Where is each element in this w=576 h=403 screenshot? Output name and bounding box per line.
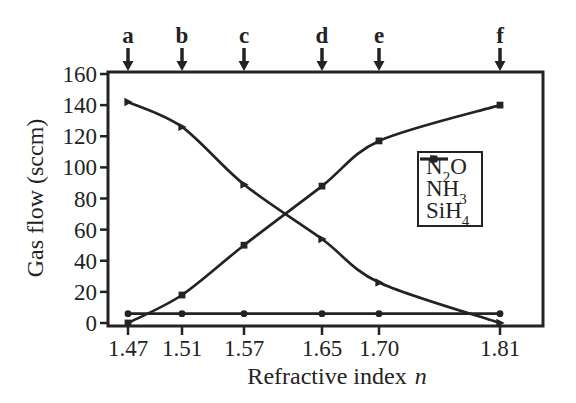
chart-svg: 0204060801001201401601.471.511.571.651.7…: [0, 0, 576, 403]
square-marker-icon: [125, 320, 132, 327]
y-tick-label: 80: [74, 187, 97, 212]
y-tick-label: 0: [86, 311, 98, 336]
x-tick-label: 1.57: [224, 336, 264, 361]
annotation-arrow-e: [374, 48, 385, 71]
annotation-arrow-f: [495, 48, 506, 71]
y-tick-label: 20: [74, 280, 97, 305]
down-arrow-head-icon: [239, 61, 250, 71]
legend-circle-swatch-icon: [419, 153, 449, 165]
y-tick-label: 120: [63, 124, 98, 149]
series-SiH4: [125, 310, 504, 317]
annotation-arrow-a: [123, 48, 134, 71]
annotation-arrow-d: [317, 48, 328, 71]
x-tick-label: 1.70: [359, 336, 399, 361]
arrow-letter: a: [122, 23, 134, 48]
y-axis-title: Gas flow (sccm): [22, 119, 49, 278]
down-arrow-head-icon: [177, 61, 188, 71]
arrow-letter: d: [316, 23, 329, 48]
circle-marker-icon: [376, 310, 383, 317]
arrow-letter: b: [176, 23, 189, 48]
y-tick-label: 160: [63, 62, 98, 87]
legend: N2ONH3SiH4: [417, 151, 483, 227]
circle-marker-icon: [179, 310, 186, 317]
down-arrow-head-icon: [374, 61, 385, 71]
x-tick-label: 1.65: [302, 336, 342, 361]
arrow-letter: f: [496, 23, 504, 48]
figure: 0204060801001201401601.471.511.571.651.7…: [0, 0, 576, 403]
circle-marker-icon: [241, 310, 248, 317]
circle-marker-icon: [125, 310, 132, 317]
y-tick-label: 60: [74, 218, 97, 243]
x-tick-label: 1.81: [480, 336, 520, 361]
circle-marker-icon: [431, 156, 438, 163]
square-marker-icon: [376, 138, 383, 145]
arrow-letter: c: [239, 23, 249, 48]
circle-marker-icon: [319, 310, 326, 317]
triangle-marker-icon: [124, 98, 132, 106]
x-axis-title: Refractive indexn: [247, 363, 426, 390]
down-arrow-head-icon: [123, 61, 134, 71]
down-arrow-head-icon: [317, 61, 328, 71]
circle-marker-icon: [497, 310, 504, 317]
annotation-arrow-b: [177, 48, 188, 71]
y-tick-label: 140: [63, 93, 98, 118]
square-marker-icon: [179, 292, 186, 299]
y-tick-label: 40: [74, 249, 97, 274]
x-axis-title-symbol: n: [415, 363, 427, 389]
down-arrow-head-icon: [495, 61, 506, 71]
arrow-letter: e: [374, 23, 384, 48]
annotation-arrow-c: [239, 48, 250, 71]
y-tick-label: 100: [63, 155, 98, 180]
square-marker-icon: [497, 102, 504, 109]
x-tick-label: 1.47: [108, 336, 148, 361]
x-tick-label: 1.51: [162, 336, 202, 361]
x-axis-title-text: Refractive index: [247, 363, 406, 389]
square-marker-icon: [241, 242, 248, 249]
square-marker-icon: [319, 183, 326, 190]
